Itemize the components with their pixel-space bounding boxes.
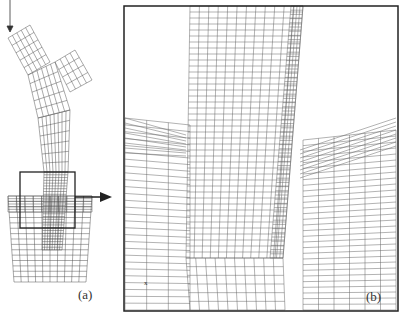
fe-mesh-figure xyxy=(0,0,401,314)
panel-a-mesh xyxy=(8,25,92,282)
load-arrow-icon xyxy=(7,0,13,32)
zoom-arrow-icon xyxy=(75,192,112,202)
panel-a-label: (a) xyxy=(78,287,92,303)
panel-b-frame xyxy=(124,6,398,311)
axis-marker: x xyxy=(144,279,148,287)
panel-b-label: (b) xyxy=(366,289,381,305)
panel-b-mesh xyxy=(125,6,396,310)
